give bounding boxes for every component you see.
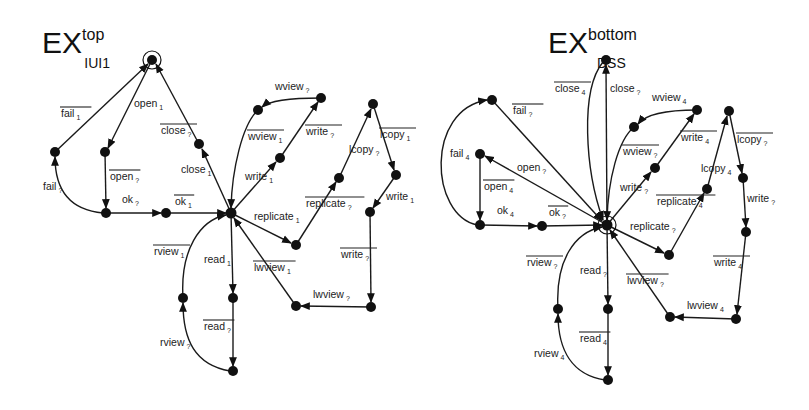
state-node <box>731 314 741 324</box>
state-node <box>101 208 111 218</box>
transition-label: lwview? <box>313 288 350 302</box>
transition-label: write? <box>305 125 334 139</box>
transition-label: open? <box>110 170 139 184</box>
transition-label: fail? <box>513 104 532 118</box>
transition-label: read4 <box>580 332 607 346</box>
state-node <box>553 304 563 314</box>
state-node <box>702 184 712 194</box>
state-node <box>368 99 378 109</box>
transition-label: lwview1 <box>254 261 291 275</box>
transition-label: ok? <box>549 206 566 220</box>
diagram-title-left: EXtopIUI1 <box>42 26 110 71</box>
transition-label: close4 <box>555 82 586 96</box>
transition-label: open4 <box>484 180 513 194</box>
transition-label: write1 <box>244 170 273 184</box>
state-node <box>664 250 674 260</box>
state-node <box>724 106 734 116</box>
state-node <box>391 170 401 180</box>
state-node <box>161 208 171 218</box>
diagram-ex-top-iui1: EXtopIUI1 <box>42 26 416 376</box>
transition-label: replicate? <box>306 197 352 211</box>
state-node <box>100 147 110 157</box>
state-node <box>475 220 485 230</box>
state-node <box>50 147 60 157</box>
transition-label: ok1 <box>175 195 192 209</box>
transition-label: fail4 <box>450 147 469 161</box>
state-node <box>253 105 263 115</box>
transition-label: replicate? <box>630 220 676 234</box>
state-node <box>178 293 188 303</box>
state-node <box>147 55 157 65</box>
state-node <box>603 304 613 314</box>
transition-label: open1 <box>134 97 163 111</box>
transition-label: write? <box>746 192 775 206</box>
transition-label: wview? <box>622 145 658 159</box>
state-node <box>228 366 238 376</box>
transition-label: write1 <box>385 190 414 204</box>
transition-label: wview? <box>274 80 310 94</box>
transition-label: ok4 <box>497 204 514 218</box>
transition-label: close? <box>161 124 192 138</box>
transition-label: write4 <box>680 131 709 145</box>
transition-label: rview? <box>160 336 191 350</box>
transition-label: replicate1 <box>254 210 300 224</box>
state-node <box>741 227 751 237</box>
diagram-title-right: EXbottomDSS <box>548 26 637 71</box>
transition-label: write? <box>619 181 648 195</box>
state-node <box>629 122 639 132</box>
state-node <box>291 240 301 250</box>
state-node <box>738 173 748 183</box>
transition-label: lcopy1 <box>380 128 411 142</box>
state-node <box>650 163 660 173</box>
state-node <box>316 93 326 103</box>
transition-label: write4 <box>713 256 742 270</box>
transition-label: lcopy? <box>737 133 768 147</box>
transition-label: rview? <box>527 256 558 270</box>
transition-label: lwview4 <box>687 299 724 313</box>
state-node <box>194 139 204 149</box>
transition-label: ok? <box>122 193 139 207</box>
transition-label: replicate4 <box>657 195 703 209</box>
transition-label: close? <box>610 82 641 96</box>
transition-label: lcopy? <box>349 143 380 157</box>
transition-label: read? <box>204 320 231 334</box>
transition-label: read? <box>580 264 607 278</box>
diagram-canvas: EXtopIUI1 <box>0 0 809 410</box>
state-node <box>665 312 675 322</box>
transition-label: rview1 <box>154 245 185 259</box>
transition-label: write? <box>340 248 369 262</box>
hub-state-node <box>602 220 613 231</box>
transition-label: open? <box>517 161 546 175</box>
state-node <box>603 375 613 385</box>
transition-label: rview4 <box>534 347 565 361</box>
state-node <box>537 221 547 231</box>
transition-label: close1 <box>181 163 212 177</box>
diagram-ex-bottom-dss: EXbottomDSS <box>441 26 775 385</box>
transition-label: read1 <box>204 253 231 267</box>
transition-label: lwview? <box>627 274 664 288</box>
transition-label: wview4 <box>651 91 687 105</box>
state-node <box>334 173 344 183</box>
transition-label: fail1 <box>61 107 80 121</box>
hub-state-node <box>226 208 237 219</box>
state-node <box>365 207 375 217</box>
transition-label: lcopy4 <box>701 162 732 176</box>
state-node <box>487 95 497 105</box>
state-node <box>475 149 485 159</box>
state-node <box>366 302 376 312</box>
state-node <box>275 153 285 163</box>
transition-label: fail? <box>43 180 62 194</box>
state-node <box>228 293 238 303</box>
state-node <box>692 105 702 115</box>
transition-label: wview1 <box>247 130 283 144</box>
state-node <box>291 301 301 311</box>
state-node <box>601 55 611 65</box>
